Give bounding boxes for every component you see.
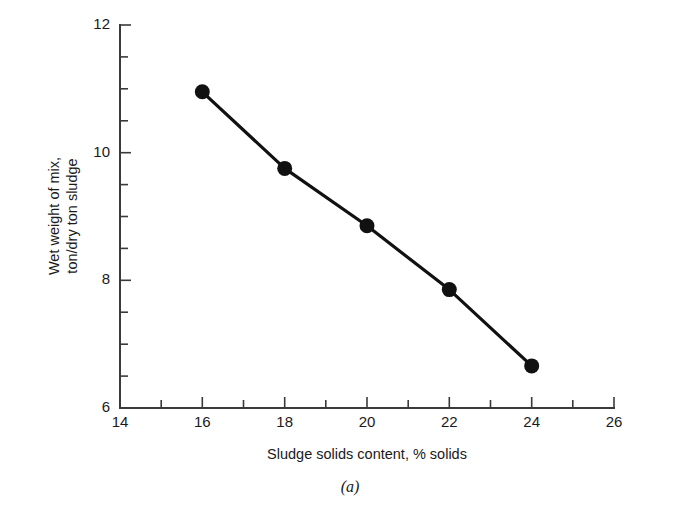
y-tick-label: 12: [93, 15, 110, 32]
x-axis-major-ticks: [120, 397, 614, 408]
x-tick-label: 16: [194, 413, 211, 430]
y-axis-minor-ticks: [120, 57, 128, 376]
x-tick-label: 14: [112, 413, 129, 430]
x-tick-label: 26: [606, 413, 623, 430]
data-point-marker: [277, 161, 292, 176]
x-tick-label: 20: [359, 413, 376, 430]
x-axis-tick-labels: 14 16 18 20 22 24 26: [112, 413, 623, 430]
x-tick-label: 18: [276, 413, 293, 430]
data-point-marker: [524, 358, 539, 373]
x-tick-label: 24: [523, 413, 540, 430]
chart-canvas: 6 8 10 12 14 16 18: [0, 0, 681, 516]
x-tick-label: 22: [441, 413, 458, 430]
panel-caption: (a): [341, 478, 360, 496]
y-axis-title-line-2: ton/dry ton sludge: [64, 158, 80, 273]
data-point-marker: [195, 84, 210, 99]
data-point-marker: [442, 282, 457, 297]
y-axis-tick-labels: 6 8 10 12: [93, 15, 110, 415]
y-axis-title: Wet weight of mix, ton/dry ton sludge: [46, 157, 80, 275]
figure-container: 6 8 10 12 14 16 18: [0, 0, 681, 516]
y-axis-title-line-1: Wet weight of mix,: [46, 157, 62, 275]
axes-group: [120, 25, 614, 408]
y-tick-label: 6: [102, 398, 110, 415]
y-tick-label: 10: [93, 143, 110, 160]
axis-lines: [120, 25, 614, 408]
y-tick-label: 8: [102, 270, 110, 287]
data-point-marker: [360, 218, 375, 233]
x-axis-title: Sludge solids content, % solids: [267, 446, 467, 462]
data-series-wet-weight: [195, 84, 539, 373]
